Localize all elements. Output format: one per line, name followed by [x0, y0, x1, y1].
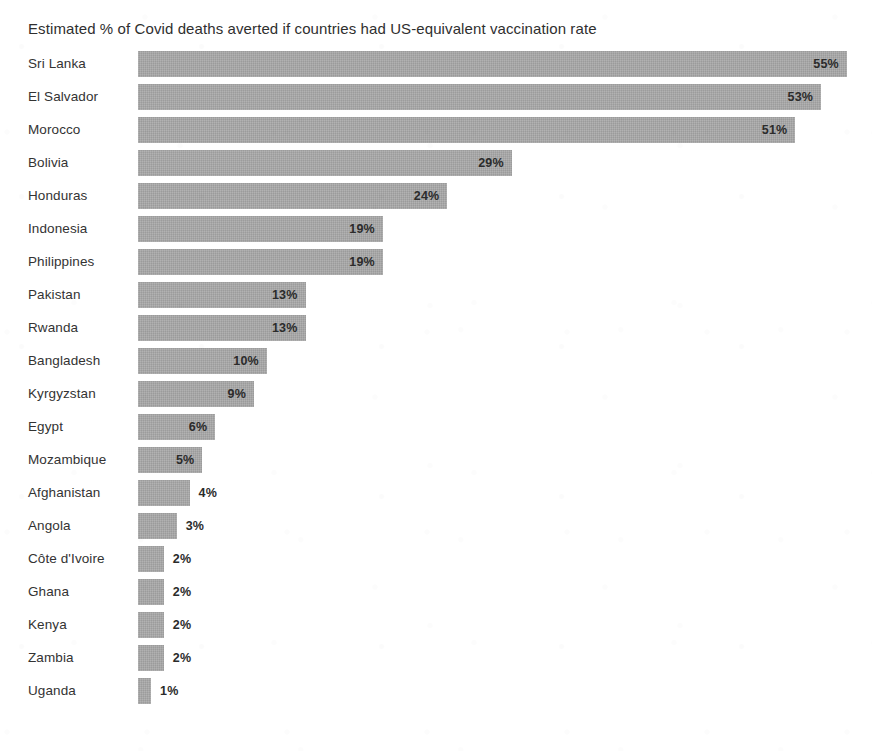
category-label: Côte d'Ivoire: [28, 546, 105, 572]
bar: [138, 645, 164, 671]
bar-track: 2%: [138, 612, 872, 638]
bar-track: 6%: [138, 414, 872, 440]
bar: [138, 51, 847, 77]
bar-track: 24%: [138, 183, 872, 209]
bar-value-label: 2%: [173, 579, 191, 605]
bar-row: Honduras24%: [0, 183, 872, 209]
bar-row: Indonesia19%: [0, 216, 872, 242]
bar-value-label: 2%: [173, 645, 191, 671]
bar-value-label: 9%: [228, 381, 246, 407]
bar-row: Rwanda13%: [0, 315, 872, 341]
bar-value-label: 13%: [272, 282, 298, 308]
bar: [138, 513, 177, 539]
category-label: Honduras: [28, 183, 87, 209]
category-label: Bangladesh: [28, 348, 100, 374]
category-label: Pakistan: [28, 282, 81, 308]
bar-row: Zambia2%: [0, 645, 872, 671]
bar-track: 1%: [138, 678, 872, 704]
category-label: Afghanistan: [28, 480, 100, 506]
bar-row: Ghana2%: [0, 579, 872, 605]
category-label: Morocco: [28, 117, 80, 143]
bar-track: 29%: [138, 150, 872, 176]
bar: [138, 216, 383, 242]
bar-row: El Salvador53%: [0, 84, 872, 110]
category-label: Zambia: [28, 645, 74, 671]
category-label: Kyrgyzstan: [28, 381, 96, 407]
bar: [138, 249, 383, 275]
category-label: Uganda: [28, 678, 76, 704]
bar-track: 2%: [138, 546, 872, 572]
bar: [138, 84, 821, 110]
bar-value-label: 10%: [233, 348, 259, 374]
bar: [138, 150, 512, 176]
bar-value-label: 2%: [173, 612, 191, 638]
category-label: Bolivia: [28, 150, 68, 176]
bar-row: Sri Lanka55%: [0, 51, 872, 77]
bar: [138, 579, 164, 605]
bar-value-label: 4%: [199, 480, 217, 506]
bar-track: 5%: [138, 447, 872, 473]
bar-row: Philippines19%: [0, 249, 872, 275]
bar-row: Uganda1%: [0, 678, 872, 704]
chart-plot-area: Sri Lanka55%El Salvador53%Morocco51%Boli…: [0, 51, 872, 711]
bar-track: 13%: [138, 282, 872, 308]
bar: [138, 612, 164, 638]
bar-row: Morocco51%: [0, 117, 872, 143]
category-label: Angola: [28, 513, 71, 539]
bar-row: Côte d'Ivoire2%: [0, 546, 872, 572]
category-label: El Salvador: [28, 84, 98, 110]
bar: [138, 678, 151, 704]
bar-value-label: 2%: [173, 546, 191, 572]
bar-track: 55%: [138, 51, 872, 77]
bar-row: Egypt6%: [0, 414, 872, 440]
bar-value-label: 6%: [189, 414, 207, 440]
bar-track: 9%: [138, 381, 872, 407]
bar-track: 13%: [138, 315, 872, 341]
bar-row: Mozambique5%: [0, 447, 872, 473]
bar: [138, 183, 447, 209]
category-label: Kenya: [28, 612, 67, 638]
bar-track: 4%: [138, 480, 872, 506]
bar: [138, 546, 164, 572]
category-label: Philippines: [28, 249, 94, 275]
bar-value-label: 1%: [160, 678, 178, 704]
bar-value-label: 19%: [349, 249, 375, 275]
bar-value-label: 53%: [788, 84, 814, 110]
bar-track: 10%: [138, 348, 872, 374]
bar-row: Bangladesh10%: [0, 348, 872, 374]
category-label: Indonesia: [28, 216, 87, 242]
bar-track: 2%: [138, 645, 872, 671]
bar-row: Pakistan13%: [0, 282, 872, 308]
bar-value-label: 51%: [762, 117, 788, 143]
bar-track: 2%: [138, 579, 872, 605]
bar-value-label: 29%: [478, 150, 504, 176]
bar-value-label: 24%: [414, 183, 440, 209]
bar-chart-figure: Estimated % of Covid deaths averted if c…: [0, 0, 872, 751]
bar-row: Kyrgyzstan9%: [0, 381, 872, 407]
bar-row: Angola3%: [0, 513, 872, 539]
bar-track: 19%: [138, 216, 872, 242]
bar-row: Afghanistan4%: [0, 480, 872, 506]
bar-value-label: 5%: [176, 447, 194, 473]
category-label: Mozambique: [28, 447, 106, 473]
bar: [138, 117, 795, 143]
bar-value-label: 13%: [272, 315, 298, 341]
bar-row: Kenya2%: [0, 612, 872, 638]
bar-value-label: 3%: [186, 513, 204, 539]
bar-row: Bolivia29%: [0, 150, 872, 176]
bar-track: 51%: [138, 117, 872, 143]
category-label: Egypt: [28, 414, 63, 440]
category-label: Sri Lanka: [28, 51, 86, 77]
category-label: Ghana: [28, 579, 69, 605]
category-label: Rwanda: [28, 315, 78, 341]
bar-track: 53%: [138, 84, 872, 110]
bar: [138, 480, 190, 506]
bar-value-label: 55%: [813, 51, 839, 77]
bar-track: 19%: [138, 249, 872, 275]
bar-value-label: 19%: [349, 216, 375, 242]
bar-track: 3%: [138, 513, 872, 539]
chart-title: Estimated % of Covid deaths averted if c…: [28, 19, 597, 38]
